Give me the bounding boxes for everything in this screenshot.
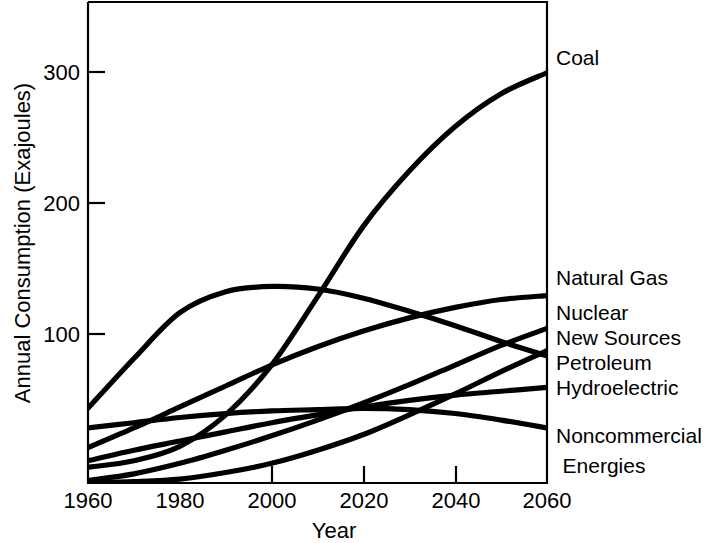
x-tick-label-2020: 2020	[340, 488, 389, 513]
series-label-coal: Coal	[556, 46, 599, 69]
series-label-new-sources: New Sources	[556, 326, 681, 349]
x-tick-label-1960: 1960	[64, 488, 113, 513]
series-label-petroleum: Petroleum	[556, 351, 652, 374]
y-axis-title: Annual Consumption (Exajoules)	[10, 83, 35, 403]
series-label-nuclear: Nuclear	[556, 301, 628, 324]
x-axis-title: Year	[312, 518, 356, 543]
chart-figure: 300 200 100 1960 1980 2000 2020 2040 206…	[0, 0, 718, 543]
x-tick-label-1980: 1980	[156, 488, 205, 513]
x-tick-label-2060: 2060	[523, 488, 572, 513]
series-label-energies: Energies	[563, 454, 646, 477]
y-tick-label-200: 200	[43, 191, 80, 216]
x-tick-label-2040: 2040	[432, 488, 481, 513]
series-label-noncommercial: Noncommercial	[556, 424, 702, 447]
series-label-natural-gas: Natural Gas	[556, 266, 668, 289]
x-tick-label-2000: 2000	[248, 488, 297, 513]
line-chart-svg: 300 200 100 1960 1980 2000 2020 2040 206…	[0, 0, 718, 543]
y-tick-label-100: 100	[43, 322, 80, 347]
y-tick-label-300: 300	[43, 60, 80, 85]
series-label-hydroelectric: Hydroelectric	[556, 376, 679, 399]
